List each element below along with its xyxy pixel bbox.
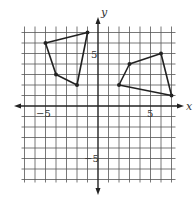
y-tick-label-5: 5 xyxy=(91,49,97,60)
vertex-point xyxy=(159,52,163,56)
vertex-point xyxy=(54,73,58,77)
y-axis-down-arrow-icon xyxy=(96,188,101,195)
y-axis-name: y xyxy=(100,6,108,19)
vertex-point xyxy=(44,41,48,45)
x-tick-label-neg5: −5 xyxy=(36,108,51,119)
y-tick-label-neg5: −5 xyxy=(84,153,99,164)
coordinate-plane: y x −5 5 5 −5 xyxy=(0,0,196,202)
vertex-point xyxy=(75,83,79,87)
axes xyxy=(14,17,184,195)
x-axis-right-arrow-icon xyxy=(177,104,184,109)
x-axis-left-arrow-icon xyxy=(14,104,21,109)
y-axis-up-arrow-icon xyxy=(96,17,101,24)
x-tick-label-5: 5 xyxy=(147,108,153,119)
vertex-point xyxy=(128,62,132,66)
vertex-point xyxy=(86,31,90,35)
x-axis-name: x xyxy=(186,100,193,113)
vertex-point xyxy=(170,94,174,98)
vertex-point xyxy=(117,83,121,87)
